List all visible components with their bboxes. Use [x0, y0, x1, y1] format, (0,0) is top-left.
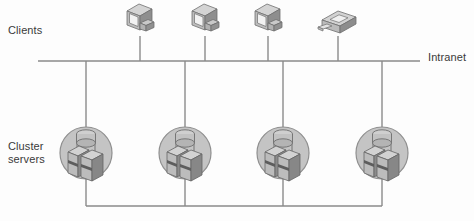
workstation-icon — [192, 4, 219, 31]
diagram-canvas — [0, 0, 474, 221]
cluster-node-1 — [60, 127, 112, 181]
cluster-node-4 — [356, 127, 408, 181]
clients-label: Clients — [8, 24, 42, 37]
intranet-label: Intranet — [428, 51, 466, 64]
cluster-node-3 — [257, 127, 309, 181]
workstation-icon — [255, 4, 282, 31]
network-diagram: Clients Cluster servers Intranet — [0, 0, 474, 221]
cluster-node-2 — [159, 127, 211, 181]
client-workstation-1 — [127, 4, 154, 31]
workstation-icon — [127, 4, 154, 31]
printer-icon — [318, 11, 356, 33]
cluster-downlinks — [86, 179, 382, 206]
cluster-servers-label: Cluster servers — [8, 140, 45, 166]
client-workstation-3 — [255, 4, 282, 31]
client-printer-1 — [318, 11, 356, 33]
client-drop-lines — [140, 36, 338, 61]
cluster-uplinks — [86, 61, 382, 127]
client-workstation-2 — [192, 4, 219, 31]
